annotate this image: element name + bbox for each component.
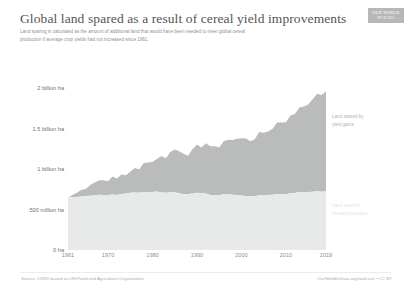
series-label-land-spared-line-2: yield gains <box>332 121 364 129</box>
x-tick-label-0: 1961 <box>62 252 74 258</box>
series-label-land-used-line-2: cereal production <box>332 210 367 218</box>
x-tick-label-1: 1970 <box>102 252 114 258</box>
x-tick-label-6: 2019 <box>320 252 332 258</box>
x-tick-label-3: 1990 <box>191 252 203 258</box>
footer-link[interactable]: OurWorldInData.org/land-use • CC BY <box>317 276 392 281</box>
chart-subtitle: Land sparing is calculated as the amount… <box>20 28 310 45</box>
series-label-land-used-line-1: Land used for <box>332 202 367 210</box>
x-axis: 1961197019801990200020102019 <box>68 252 326 264</box>
y-tick-label-3: 1.5 billion ha <box>33 126 64 132</box>
y-tick-label-2: 1 billion ha <box>37 166 64 172</box>
chart-page: Global land spared as a result of cereal… <box>0 0 411 299</box>
series-label-land-spared-line-1: Land spared by <box>332 113 364 121</box>
series-label-land-spared: Land spared by yield gains <box>332 113 364 129</box>
x-tick-label-2: 1980 <box>146 252 158 258</box>
x-tick-label-5: 2010 <box>280 252 292 258</box>
chart-header: Global land spared as a result of cereal… <box>0 0 411 52</box>
x-tick-label-4: 2000 <box>235 252 247 258</box>
area-chart-svg <box>68 56 326 250</box>
area-series-land-used <box>68 191 326 250</box>
footer-source-text: Source: OWID based on UN Food and Agricu… <box>21 276 144 281</box>
owid-logo-line-2: IN DATA <box>377 16 395 20</box>
series-label-land-used: Land used for cereal production <box>332 202 367 218</box>
owid-logo: OUR WORLD IN DATA <box>368 8 404 23</box>
chart-footer: Source: OWID based on UN Food and Agricu… <box>0 272 411 286</box>
chart-subtitle-line-1: Land sparing is calculated as the amount… <box>20 28 310 36</box>
page-title: Global land spared as a result of cereal… <box>20 11 346 27</box>
y-tick-label-1: 500 million ha <box>29 207 64 213</box>
plot-area <box>68 56 326 250</box>
footer-divider <box>20 272 391 273</box>
y-tick-label-4: 2 billion ha <box>37 85 64 91</box>
y-axis: 0 ha500 million ha1 billion ha1.5 billio… <box>0 56 64 250</box>
chart-subtitle-line-2: production if average crop yields had no… <box>20 36 310 44</box>
area-series-land-spared <box>68 91 326 197</box>
